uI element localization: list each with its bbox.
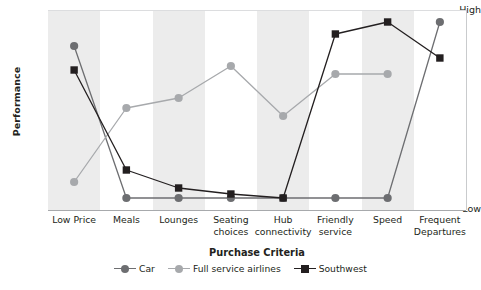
legend-item[interactable]: Car	[114, 263, 155, 274]
data-point-square	[123, 166, 130, 173]
data-point-square	[175, 184, 182, 191]
data-point-circle	[384, 194, 392, 202]
data-point-circle	[175, 94, 183, 102]
data-point-circle	[70, 178, 78, 186]
data-point-circle	[331, 194, 339, 202]
legend-item[interactable]: Southwest	[294, 263, 367, 274]
plot-right-border	[466, 10, 467, 210]
x-axis-title: Purchase Criteria	[48, 247, 466, 258]
performance-line-chart: Performance High Low Low PriceMealsLoung…	[0, 0, 481, 290]
data-point-circle	[122, 104, 130, 112]
legend-item[interactable]: Full service airlines	[168, 263, 281, 274]
data-point-circle	[227, 62, 235, 70]
legend-label: Full service airlines	[193, 263, 281, 274]
y-axis-title: Performance	[11, 42, 22, 162]
data-point-circle	[175, 194, 183, 202]
data-point-square	[436, 54, 443, 61]
plot-top-border	[48, 10, 466, 11]
data-point-circle	[436, 18, 444, 26]
series-full-service-airlines	[70, 62, 392, 186]
legend-square-icon	[294, 263, 316, 274]
legend-label: Southwest	[319, 263, 367, 274]
series-line	[74, 66, 388, 182]
chart-legend: CarFull service airlinesSouthwest	[0, 263, 481, 274]
x-axis-label: Frequent Departures	[408, 214, 472, 237]
x-axis-tick-labels: Low PriceMealsLoungesSeating choicesHub …	[48, 214, 466, 248]
plot-area	[48, 10, 466, 210]
data-point-circle	[384, 70, 392, 78]
series-layer	[48, 10, 466, 210]
x-axis-line	[48, 210, 466, 211]
data-point-square	[332, 30, 339, 37]
data-point-square	[279, 194, 286, 201]
data-point-square	[70, 66, 77, 73]
legend-circle-icon	[114, 263, 136, 274]
data-point-square	[384, 18, 391, 25]
data-point-square	[227, 190, 234, 197]
legend-circle-icon	[168, 263, 190, 274]
data-point-circle	[122, 194, 130, 202]
data-point-circle	[279, 112, 287, 120]
legend-label: Car	[139, 263, 155, 274]
data-point-circle	[331, 70, 339, 78]
data-point-circle	[70, 42, 78, 50]
